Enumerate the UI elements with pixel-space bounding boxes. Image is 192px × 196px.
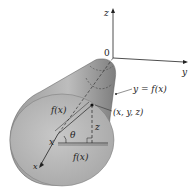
z-axis-arrow-icon [111, 8, 115, 13]
angle-label: θ [70, 130, 76, 140]
curve-label: y = f(x) [132, 84, 167, 94]
solid-of-revolution [10, 58, 116, 186]
y-axis-label: y [181, 67, 188, 77]
revolution-diagram: z y 0 x y = f(x) (x, y, z) f(x) θ z x f(… [0, 0, 192, 196]
height-label: z [94, 122, 100, 132]
radius-upper-label: f(x) [50, 105, 67, 115]
axes [111, 8, 188, 64]
curve-marker [115, 93, 117, 95]
curve-leader [116, 89, 132, 94]
radius-lower-label: f(x) [72, 152, 89, 162]
point-label: (x, y, z) [113, 107, 143, 117]
x-axis-label: x [33, 162, 38, 171]
x-on-axis-label: x [49, 137, 54, 147]
origin-label: 0 [104, 48, 110, 58]
point-marker [90, 103, 93, 106]
y-axis [113, 58, 184, 62]
z-axis-label: z [103, 8, 109, 18]
y-axis-arrow-icon [183, 60, 188, 64]
